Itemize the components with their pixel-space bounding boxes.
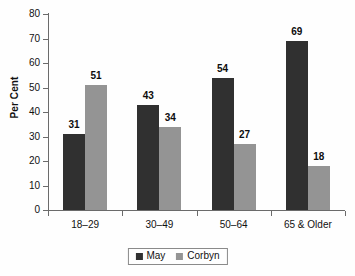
y-axis-tick-label: 10 <box>14 181 40 191</box>
bar-corbyn-3 <box>308 166 330 210</box>
y-axis-tick-label: 40 <box>14 107 40 117</box>
bar-may-2 <box>212 78 234 210</box>
x-axis-tick <box>271 211 272 216</box>
y-axis-tick-label: 30 <box>14 132 40 142</box>
bar-value-label: 43 <box>131 91 165 101</box>
bar-value-label: 69 <box>280 27 314 37</box>
legend-swatch-may-icon <box>135 253 142 260</box>
legend-swatch-corbyn-icon <box>176 253 183 260</box>
x-axis-tick <box>345 211 346 216</box>
bar-value-label: 54 <box>206 64 240 74</box>
bar-may-0 <box>63 134 85 210</box>
x-axis-category-label: 65 & Older <box>271 219 345 230</box>
chart-legend: May Corbyn <box>127 248 227 265</box>
y-axis-title: Per Cent <box>9 58 20 138</box>
y-axis-tick <box>43 39 48 40</box>
bar-value-label: 18 <box>302 152 336 162</box>
y-axis-tick <box>43 137 48 138</box>
legend-label-may: May <box>146 251 165 261</box>
x-axis-tick <box>48 211 49 216</box>
bar-corbyn-0 <box>85 85 107 210</box>
y-axis-tick-label: 50 <box>14 83 40 93</box>
bar-chart: Per Cent 80706050403020100 3151433454276… <box>0 0 355 276</box>
y-axis-tick-label: 20 <box>14 156 40 166</box>
y-axis-tick-label: 60 <box>14 58 40 68</box>
y-axis-tick-label: 0 <box>14 205 40 215</box>
y-axis-tick <box>43 161 48 162</box>
x-axis-tick <box>122 211 123 216</box>
x-axis-tick <box>197 211 198 216</box>
y-axis-tick-label: 80 <box>14 9 40 19</box>
legend-label-corbyn: Corbyn <box>187 251 219 261</box>
legend-item-may[interactable]: May <box>135 251 165 261</box>
bar-corbyn-2 <box>234 144 256 210</box>
bar-may-3 <box>286 41 308 210</box>
bar-value-label: 34 <box>153 113 187 123</box>
y-axis-tick <box>43 186 48 187</box>
x-axis-category-label: 50–64 <box>197 219 271 230</box>
y-axis-tick-label: 70 <box>14 34 40 44</box>
y-axis-tick <box>43 14 48 15</box>
bar-corbyn-1 <box>159 127 181 210</box>
y-axis-tick <box>43 63 48 64</box>
y-axis-tick <box>43 88 48 89</box>
y-axis-line <box>48 13 49 211</box>
legend-item-corbyn[interactable]: Corbyn <box>176 251 219 261</box>
x-axis-category-label: 18–29 <box>48 219 122 230</box>
y-axis-tick <box>43 112 48 113</box>
bar-value-label: 51 <box>79 71 113 81</box>
bar-value-label: 27 <box>228 130 262 140</box>
x-axis-category-label: 30–49 <box>122 219 196 230</box>
